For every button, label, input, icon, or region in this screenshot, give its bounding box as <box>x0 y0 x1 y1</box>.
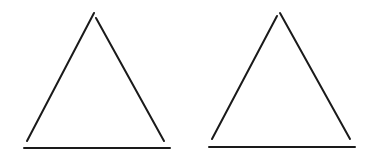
triangle-left-right-leg <box>96 18 164 141</box>
triangle-left <box>24 13 170 148</box>
triangle-left-left-leg <box>27 13 94 141</box>
triangle-right-left-leg <box>212 16 277 139</box>
diagram-canvas <box>0 0 374 159</box>
triangle-right <box>209 13 355 147</box>
triangle-right-right-leg <box>280 13 350 139</box>
triangles-diagram <box>0 0 374 159</box>
